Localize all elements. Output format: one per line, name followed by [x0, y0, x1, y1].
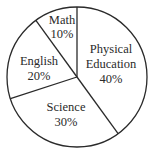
label-physical: Physical	[90, 42, 133, 56]
label-math-value: 10%	[51, 27, 74, 41]
label-math: Math	[49, 13, 76, 27]
label-science-value: 30%	[55, 115, 78, 129]
label-science: Science	[47, 100, 86, 114]
label-education: Education	[86, 57, 137, 71]
pie-chart: Physical Education 40% Science 30% Engli…	[0, 0, 150, 151]
slice-math: Math 10%	[49, 13, 76, 41]
label-physical-education-value: 40%	[100, 72, 123, 86]
label-english: English	[20, 54, 59, 68]
label-english-value: 20%	[28, 69, 51, 83]
